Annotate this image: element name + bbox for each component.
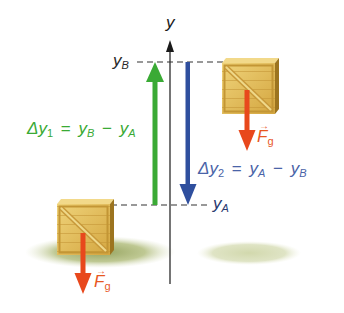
vector-arrow-icon: →	[259, 121, 269, 131]
level-label-yB: yB	[113, 52, 129, 71]
gravity-label-upper: F → g	[257, 128, 274, 147]
ground-shadow-right	[197, 241, 301, 265]
level-label-yA: yA	[213, 195, 229, 214]
delta-y2-arrow	[180, 62, 197, 205]
level-subscript: B	[122, 59, 129, 71]
diagram-graphics	[0, 0, 344, 313]
eq-lhs-subscript: 2	[218, 167, 224, 179]
eq-term2-subscript: B	[299, 167, 306, 179]
eq-term1-subscript: B	[87, 127, 94, 139]
y-axis-label: y	[166, 14, 175, 31]
eq-term2: y	[291, 159, 300, 178]
arrow-down-icon	[75, 273, 92, 294]
delta-y1-equation: Δy1 = yB − yA	[27, 120, 136, 139]
level-symbol: y	[113, 51, 122, 70]
level-subscript: A	[222, 202, 229, 214]
eq-term1-subscript: A	[258, 167, 265, 179]
eq-lhs: Δy	[198, 159, 218, 178]
arrow-up-icon	[146, 62, 164, 82]
level-symbol: y	[213, 194, 222, 213]
force-subscript: g	[267, 135, 273, 147]
eq-minus: −	[273, 159, 283, 178]
arrow-down-icon	[239, 130, 256, 151]
eq-term1: y	[78, 119, 87, 138]
crate-upper-icon	[222, 58, 279, 114]
gravitational-displacement-diagram: y yB yA Δy1 = yB − yA Δy2 = yA − yB F → …	[0, 0, 344, 313]
force-subscript: g	[104, 280, 110, 292]
eq-equals: =	[232, 159, 242, 178]
eq-equals: =	[61, 119, 71, 138]
gravity-label-lower: F → g	[94, 273, 111, 292]
eq-term2-subscript: A	[128, 127, 135, 139]
eq-term2: y	[120, 119, 129, 138]
delta-y2-equation: Δy2 = yA − yB	[198, 160, 307, 179]
vector-F: F →	[94, 273, 104, 290]
delta-y1-arrow	[146, 62, 164, 205]
arrow-down-icon	[180, 184, 197, 205]
eq-lhs-subscript: 1	[47, 127, 53, 139]
eq-term1: y	[249, 159, 258, 178]
eq-lhs: Δy	[27, 119, 47, 138]
y-axis-arrowhead-icon	[166, 40, 174, 52]
vector-F: F →	[257, 128, 267, 145]
vector-arrow-icon: →	[96, 266, 106, 276]
eq-minus: −	[102, 119, 112, 138]
